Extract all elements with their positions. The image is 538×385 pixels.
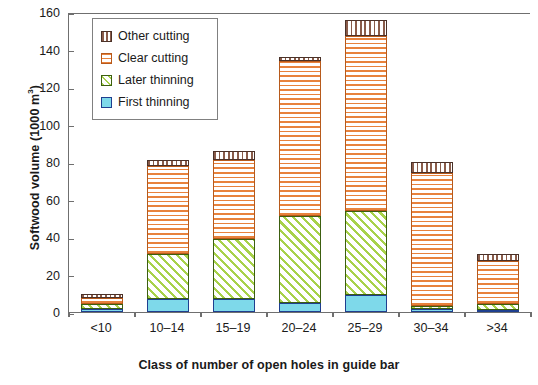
first-thinning-swatch	[101, 97, 112, 108]
legend-item-label: Later thinning	[118, 73, 194, 87]
y-axis-tick-mark	[69, 314, 74, 315]
y-axis-tick-mark	[69, 276, 74, 277]
bar-segment-other	[411, 162, 453, 173]
x-axis-tick-label: 10–14	[150, 321, 185, 335]
y-axis-tick-mark	[69, 201, 74, 202]
y-axis-tick-label: 80	[46, 156, 60, 170]
bar-segment-clear	[477, 261, 519, 304]
bar-segment-clear	[213, 160, 255, 239]
x-axis-tick-label: 30–34	[414, 321, 449, 335]
y-axis-tick-mark	[69, 89, 74, 90]
x-axis-tick-mark	[266, 312, 267, 317]
y-axis-title-exponent: 3	[26, 89, 35, 94]
x-axis-tick-label: <10	[90, 321, 111, 335]
bar-25-29	[345, 20, 387, 313]
x-axis-tick-mark	[530, 312, 531, 317]
bar-segment-later	[213, 239, 255, 299]
x-axis-tick-mark	[200, 312, 201, 317]
y-axis-tick-mark	[69, 239, 74, 240]
legend-item-label: Other cutting	[118, 29, 190, 43]
bar-segment-clear	[411, 173, 453, 306]
bar-10	[81, 294, 123, 312]
bar-segment-later	[279, 216, 321, 302]
x-axis-tick-label: 25–29	[348, 321, 383, 335]
bar-segment-first	[147, 299, 189, 312]
legend-item-label: First thinning	[118, 95, 190, 109]
bar-segment-clear	[279, 61, 321, 217]
bar-10-14	[147, 160, 189, 312]
y-axis-title: Softwood volume (1000 m3)	[26, 38, 41, 298]
bar-segment-clear	[345, 36, 387, 210]
bar-segment-first	[81, 309, 123, 312]
legend-item: Later thinning	[101, 69, 210, 91]
y-axis-tick-label: 100	[39, 119, 60, 133]
y-axis-tick-label: 160	[39, 6, 60, 20]
bar-15-19	[213, 151, 255, 312]
legend-item: First thinning	[101, 91, 210, 113]
legend-item: Other cutting	[101, 25, 210, 47]
later-thinning-swatch	[101, 75, 112, 86]
x-axis-tick-mark	[398, 312, 399, 317]
bar-30-34	[411, 162, 453, 312]
x-axis-tick-mark	[68, 312, 69, 317]
y-axis-tick-label: 0	[53, 306, 60, 320]
y-axis-tick-mark	[69, 164, 74, 165]
x-axis-tick-mark	[332, 312, 333, 317]
bar-20-24	[279, 57, 321, 312]
x-axis-tick-mark	[464, 312, 465, 317]
x-axis-tick-mark	[134, 312, 135, 317]
other-cutting-swatch	[101, 31, 112, 42]
x-axis-title: Class of number of open holes in guide b…	[0, 358, 538, 372]
bar-segment-first	[477, 310, 519, 312]
legend-item-label: Clear cutting	[118, 51, 188, 65]
bar-segment-other	[477, 254, 519, 262]
bar-segment-other	[213, 151, 255, 160]
y-axis-tick-mark	[69, 14, 74, 15]
chart-legend: Other cuttingClear cuttingLater thinning…	[92, 18, 218, 120]
y-axis-tick-label: 60	[46, 194, 60, 208]
bar-segment-later	[345, 211, 387, 295]
bar-34	[477, 254, 519, 312]
bar-segment-first	[279, 303, 321, 312]
y-axis-tick-label: 40	[46, 231, 60, 245]
legend-item: Clear cutting	[101, 47, 210, 69]
clear-cutting-swatch	[101, 53, 112, 64]
bar-segment-first	[213, 299, 255, 312]
y-axis-tick-label: 140	[39, 44, 60, 58]
y-axis-tick-mark	[69, 126, 74, 127]
y-axis-tick-label: 20	[46, 269, 60, 283]
y-axis-tick-label: 120	[39, 81, 60, 95]
bar-segment-clear	[147, 166, 189, 254]
y-axis-tick-mark	[69, 51, 74, 52]
bar-segment-other	[345, 20, 387, 37]
bar-segment-later	[147, 254, 189, 299]
x-axis-tick-label: 20–24	[282, 321, 317, 335]
x-axis-tick-label: 15–19	[216, 321, 251, 335]
bar-segment-first	[345, 295, 387, 312]
softwood-volume-chart: Softwood volume (1000 m3) 02040608010012…	[0, 0, 538, 385]
y-axis-title-text: Softwood volume (1000 m	[28, 94, 42, 251]
bar-segment-first	[411, 309, 453, 312]
x-axis-tick-label: >34	[486, 321, 507, 335]
